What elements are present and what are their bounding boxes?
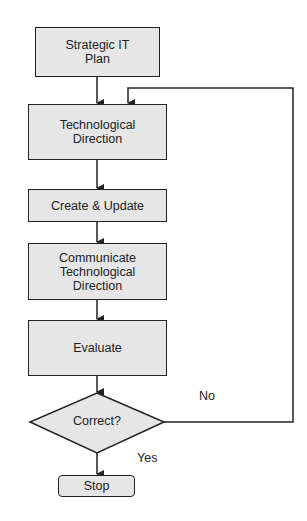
node-evaluate: Evaluate xyxy=(28,320,167,376)
node-communicate: Communicate Technological Direction xyxy=(28,243,167,300)
edge-label-yes: Yes xyxy=(137,451,157,465)
edge-label-no: No xyxy=(199,389,215,403)
decision-label: Correct? xyxy=(47,414,147,428)
node-stop: Stop xyxy=(58,475,135,497)
node-create-update: Create & Update xyxy=(28,189,167,222)
node-strategic-it-plan: Strategic IT Plan xyxy=(35,27,160,77)
node-technological-direction: Technological Direction xyxy=(28,104,167,160)
